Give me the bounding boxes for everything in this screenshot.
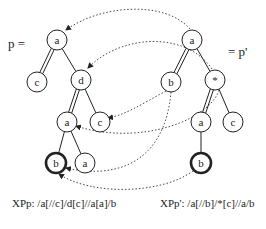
svg-text:a: a	[55, 34, 60, 46]
child-edge	[71, 131, 81, 154]
left-xpath-expression: XPp: /a[//c]/d[c]//a[a]/b	[12, 197, 116, 209]
tree-homomorphism-diagram: acdacbaab*acb p = = p' XPp: /a[//c]/d[c]…	[0, 0, 266, 229]
svg-text:a: a	[190, 34, 195, 46]
svg-text:b: b	[168, 76, 174, 88]
descendant-edge	[203, 89, 211, 112]
diagram-canvas: acdacbaab*acb	[0, 0, 266, 229]
tree-node-wildcard: *	[205, 70, 225, 90]
svg-text:a: a	[83, 157, 88, 169]
tree-node-c: c	[27, 72, 47, 92]
tree-node-b: b	[191, 153, 211, 173]
left-tree-label: p =	[8, 36, 25, 52]
svg-text:a: a	[65, 116, 70, 128]
tree-node-c: c	[223, 112, 243, 132]
svg-text:b: b	[198, 157, 204, 169]
mapping-arrow	[108, 91, 166, 118]
child-edge	[85, 89, 96, 113]
right-xpath-expression: XPp': /a[//b]/*[c]//a/b	[160, 197, 255, 209]
tree-node-a: a	[47, 30, 67, 50]
tree-node-d: d	[71, 70, 91, 90]
descendant-edge	[174, 48, 186, 72]
mapping-arrow	[59, 171, 193, 189]
tree-node-a: a	[57, 112, 77, 132]
svg-text:c: c	[231, 116, 236, 128]
child-edge	[62, 49, 76, 72]
svg-text:a: a	[199, 116, 204, 128]
right-tree-label: = p'	[228, 44, 247, 60]
tree-node-c: c	[90, 112, 110, 132]
child-edge	[219, 89, 229, 113]
descendant-edge	[69, 89, 77, 112]
descendant-edge	[206, 90, 214, 113]
tree-node-b: b	[46, 153, 66, 173]
svg-text:d: d	[78, 74, 84, 86]
tree-edges	[40, 48, 229, 154]
descendant-edge	[177, 50, 189, 74]
mapping-arrow	[66, 9, 190, 30]
tree-node-a: a	[75, 153, 95, 173]
tree-node-a: a	[182, 30, 202, 50]
tree-node-a: a	[191, 112, 211, 132]
child-edge	[197, 49, 210, 72]
tree-node-b: b	[161, 72, 181, 92]
svg-text:*: *	[212, 74, 218, 86]
descendant-edge	[72, 90, 80, 113]
svg-text:c: c	[35, 76, 40, 88]
svg-text:c: c	[98, 116, 103, 128]
svg-text:b: b	[53, 157, 59, 169]
child-edge	[59, 132, 65, 154]
